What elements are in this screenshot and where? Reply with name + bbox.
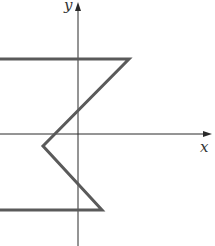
x-axis-arrow-icon [203,131,212,137]
y-axis-label: y [63,0,73,14]
function-graph: y x [0,0,215,246]
y-axis-arrow-icon [75,2,81,11]
x-axis-label: x [200,138,209,156]
